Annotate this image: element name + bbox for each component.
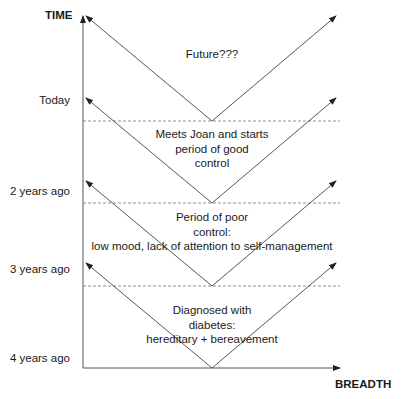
note-line: Diagnosed with [132, 303, 292, 318]
note-line: control [132, 156, 292, 171]
note-line: diabetes: [132, 318, 292, 333]
note-line: Period of poor [82, 210, 342, 225]
note-diagnosis: Diagnosed with diabetes: hereditary + be… [132, 303, 292, 347]
note-poor-control: Period of poor control: low mood, lack o… [82, 210, 342, 254]
cone-future [86, 16, 336, 121]
note-line: period of good [132, 142, 292, 157]
note-good-control: Meets Joan and starts period of good con… [132, 127, 292, 171]
note-line: low mood, lack of attention to self-mana… [82, 239, 342, 254]
note-future: Future??? [162, 47, 262, 62]
note-line: Meets Joan and starts [132, 127, 292, 142]
tick-4-years-ago: 4 years ago [0, 351, 70, 365]
note-line: hereditary + bereavement [132, 332, 292, 347]
y-axis-title: TIME [45, 8, 72, 22]
tick-today: Today [0, 93, 70, 107]
x-axis-title: BREADTH [335, 377, 391, 391]
note-line: control: [82, 225, 342, 240]
tick-3-years-ago: 3 years ago [0, 262, 70, 276]
tick-2-years-ago: 2 years ago [0, 184, 70, 198]
